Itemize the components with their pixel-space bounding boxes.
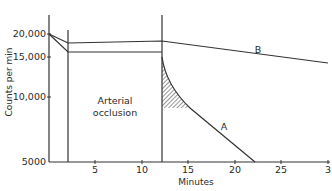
- chart: 20,000 15,000 10,000 5000 5 10 15 20 25 …: [0, 0, 332, 191]
- y-axis-label: Counts per min: [4, 47, 14, 116]
- svg-text:20,000: 20,000: [13, 28, 46, 39]
- svg-text:15: 15: [182, 164, 194, 175]
- occlusion-label-2: occlusion: [93, 107, 137, 118]
- x-tick-labels: 5 10 15 20 25 3: [92, 164, 331, 175]
- svg-text:25: 25: [275, 164, 287, 175]
- series-a-line: [162, 57, 255, 162]
- svg-text:15,000: 15,000: [13, 51, 46, 62]
- svg-text:20: 20: [229, 164, 241, 175]
- x-axis-label: Minutes: [178, 177, 214, 187]
- y-tick-labels: 20,000 15,000 10,000 5000: [13, 28, 46, 167]
- occlusion-label-1: Arterial: [98, 95, 133, 106]
- svg-text:10: 10: [136, 164, 148, 175]
- occlusion-baseline-line: [49, 34, 162, 52]
- svg-text:10,000: 10,000: [13, 91, 46, 102]
- svg-text:3: 3: [325, 164, 331, 175]
- svg-text:5000: 5000: [22, 156, 46, 167]
- series-a-label: A: [221, 121, 228, 132]
- series-b-line: [49, 34, 328, 63]
- series-b-label: B: [255, 44, 262, 55]
- hatched-area: [162, 57, 190, 108]
- svg-text:5: 5: [92, 164, 98, 175]
